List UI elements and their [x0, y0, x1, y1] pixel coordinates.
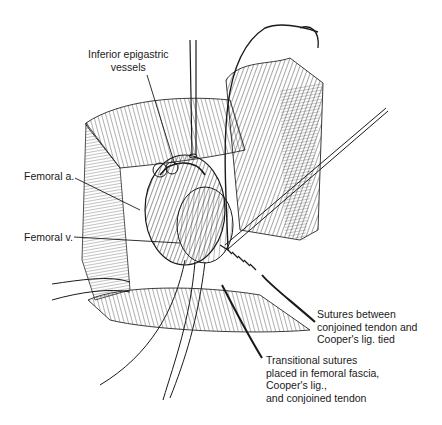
suture-line — [220, 245, 256, 270]
label-transitional-sutures: Transitional sutures placed in femoral f… — [266, 354, 379, 404]
label-femoral-artery: Femoral a. — [24, 170, 74, 183]
label-inferior-epigastric-vessels: Inferior epigastric vessels — [88, 48, 169, 73]
femoral-vessels — [145, 155, 233, 265]
label-femoral-vein: Femoral v. — [24, 231, 73, 244]
label-sutures-tied: Sutures between conjoined tendon and Coo… — [317, 308, 417, 346]
